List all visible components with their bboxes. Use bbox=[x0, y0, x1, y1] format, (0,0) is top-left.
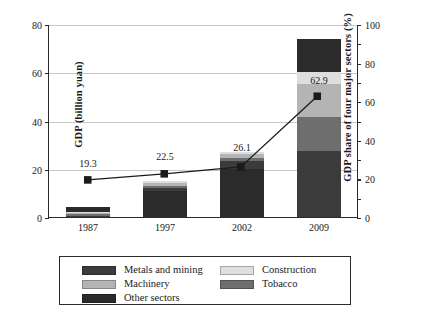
bar-segment-other-1987 bbox=[66, 207, 110, 212]
bar-segment-machinery-1987 bbox=[66, 213, 110, 214]
gridline-80 bbox=[49, 25, 357, 26]
legend-label-construction: Construction bbox=[262, 265, 316, 276]
x-axis-label-1987: 1987 bbox=[78, 222, 98, 233]
legend-label-tobacco: Tobacco bbox=[262, 279, 297, 290]
legend-item-other-sectors[interactable]: Other sectors bbox=[82, 292, 180, 304]
y2-axis-label-60: 60 bbox=[365, 97, 375, 108]
data-label-2002: 26.1 bbox=[233, 142, 251, 153]
y-axis-label-40: 40 bbox=[32, 116, 42, 127]
bar-segment-metals-2002 bbox=[220, 161, 264, 169]
y2-axis-label-80: 80 bbox=[365, 58, 375, 69]
bar-segment-machinery-2009 bbox=[297, 84, 341, 117]
x-axis-label-1997: 1997 bbox=[155, 222, 175, 233]
bar-segment-tobacco-1997 bbox=[143, 186, 187, 187]
bar-2002[interactable] bbox=[220, 152, 264, 217]
bar-segment-other-2009 bbox=[297, 39, 341, 73]
tick-right-60 bbox=[357, 102, 361, 103]
tick-right-minor-50 bbox=[358, 122, 361, 123]
bar-segment-other-2002 bbox=[220, 169, 264, 217]
tick-left-60 bbox=[45, 73, 49, 74]
legend-swatch-machinery bbox=[82, 280, 116, 289]
legend-item-machinery[interactable]: Machinery bbox=[82, 278, 169, 290]
tick-right-minor-90 bbox=[358, 44, 361, 45]
bar-2009[interactable] bbox=[297, 39, 341, 218]
legend-swatch-metals-and-mining bbox=[82, 266, 116, 275]
plot-area: 80 60 40 20 0 100 80 60 40 20 0 bbox=[48, 25, 358, 218]
legend-item-metals-and-mining[interactable]: Metals and mining bbox=[82, 264, 203, 276]
y2-axis-label-100: 100 bbox=[365, 20, 380, 31]
legend-item-tobacco[interactable]: Tobacco bbox=[220, 278, 297, 290]
tick-left-0 bbox=[45, 218, 49, 219]
y-axis-label-60: 60 bbox=[32, 68, 42, 79]
legend-swatch-tobacco bbox=[220, 280, 254, 289]
bar-segment-machinery-2002 bbox=[220, 154, 264, 158]
tick-right-0 bbox=[357, 218, 361, 219]
tick-left-20 bbox=[45, 170, 49, 171]
tick-left-80 bbox=[45, 25, 49, 26]
tick-right-minor-70 bbox=[358, 83, 361, 84]
bar-segment-machinery-1997 bbox=[143, 183, 187, 186]
bar-1987[interactable] bbox=[66, 207, 110, 217]
bar-segment-metals-2009 bbox=[297, 151, 341, 217]
chart-legend: Metals and mining Machinery Other sector… bbox=[59, 256, 351, 305]
bar-segment-construction-1987 bbox=[66, 212, 110, 213]
chart-figure: 80 60 40 20 0 100 80 60 40 20 0 bbox=[0, 0, 443, 327]
data-label-1997: 22.5 bbox=[156, 151, 174, 162]
line-marker-1997 bbox=[160, 170, 168, 178]
y2-axis-label-20: 20 bbox=[365, 174, 375, 185]
legend-label-other-sectors: Other sectors bbox=[124, 293, 180, 304]
x-axis-label-2009: 2009 bbox=[309, 222, 329, 233]
line-path bbox=[88, 96, 318, 180]
legend-item-construction[interactable]: Construction bbox=[220, 264, 316, 276]
tick-right-minor-30 bbox=[358, 160, 361, 161]
data-label-2009: 62.9 bbox=[310, 75, 328, 86]
legend-label-metals-and-mining: Metals and mining bbox=[124, 265, 203, 276]
tick-left-40 bbox=[45, 122, 49, 123]
y-axis-title: GDP (billion yuan) bbox=[73, 25, 84, 185]
bar-segment-construction-1997 bbox=[143, 181, 187, 183]
tick-right-40 bbox=[357, 141, 361, 142]
legend-label-machinery: Machinery bbox=[124, 279, 169, 290]
bar-segment-tobacco-2002 bbox=[220, 158, 264, 161]
bar-segment-metals-1997 bbox=[143, 188, 187, 191]
legend-swatch-construction bbox=[220, 266, 254, 275]
bar-segment-metals-1987 bbox=[66, 216, 110, 217]
bar-segment-other-1997 bbox=[143, 191, 187, 218]
bar-1997[interactable] bbox=[143, 181, 187, 217]
tick-right-80 bbox=[357, 64, 361, 65]
line-marker-1987 bbox=[84, 176, 92, 184]
legend-swatch-other-sectors bbox=[82, 294, 116, 303]
tick-right-20 bbox=[357, 179, 361, 180]
y2-axis-title: GDP share of four major sectors (%) bbox=[342, 0, 353, 215]
y-axis-label-80: 80 bbox=[32, 20, 42, 31]
x-axis-label-2002: 2002 bbox=[232, 222, 252, 233]
tick-right-minor-10 bbox=[358, 199, 361, 200]
bar-segment-tobacco-2009 bbox=[297, 117, 341, 151]
y-axis-label-20: 20 bbox=[32, 164, 42, 175]
bar-segment-tobacco-1987 bbox=[66, 214, 110, 216]
y2-axis-label-40: 40 bbox=[365, 135, 375, 146]
y-axis-label-0: 0 bbox=[37, 213, 42, 224]
tick-right-100 bbox=[357, 25, 361, 26]
y2-axis-label-0: 0 bbox=[365, 213, 370, 224]
